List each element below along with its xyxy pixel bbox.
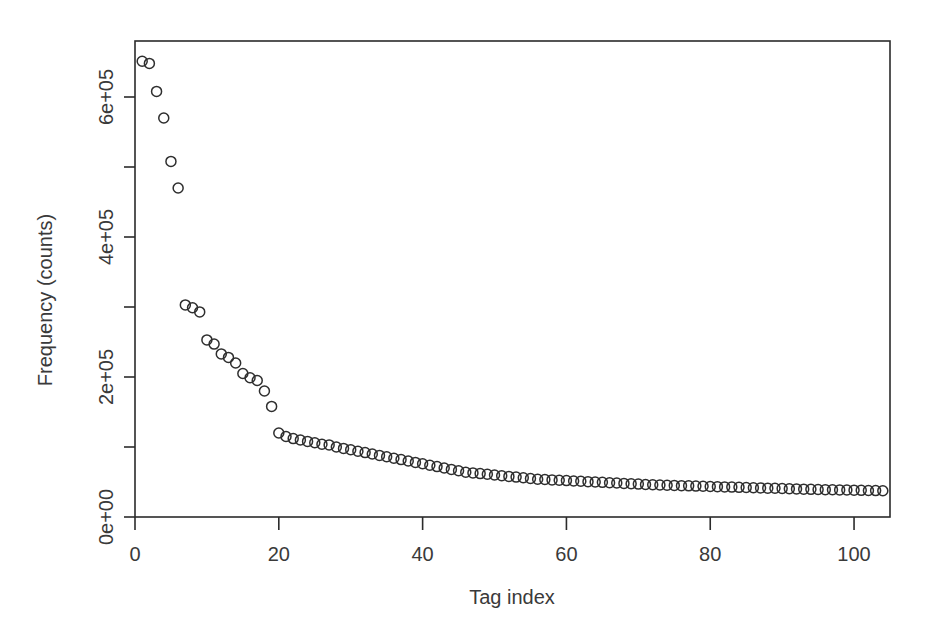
x-axis-title: Tag index xyxy=(469,586,555,608)
scatter-plot: 0e+002e+054e+056e+05 020406080100 Tag in… xyxy=(0,0,934,638)
y-axis-title: Frequency (counts) xyxy=(34,214,56,386)
x-tick-label: 40 xyxy=(411,543,433,565)
y-tick-label: 4e+05 xyxy=(95,209,117,265)
x-tick-label: 80 xyxy=(699,543,721,565)
x-tick-label: 20 xyxy=(268,543,290,565)
x-tick-label: 60 xyxy=(555,543,577,565)
x-tick-label: 0 xyxy=(129,543,140,565)
y-tick-label: 6e+05 xyxy=(95,69,117,125)
y-tick-label: 0e+00 xyxy=(95,489,117,545)
chart-page: 0e+002e+054e+056e+05 020406080100 Tag in… xyxy=(0,0,934,638)
x-tick-label: 100 xyxy=(837,543,870,565)
y-tick-label: 2e+05 xyxy=(95,349,117,405)
